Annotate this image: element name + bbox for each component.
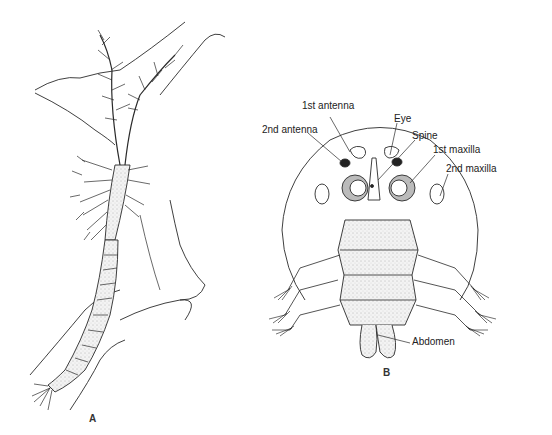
label-1st-maxilla: 1st maxilla (433, 144, 480, 155)
label-2nd-maxilla: 2nd maxilla (446, 163, 497, 174)
label-2nd-antenna: 2nd antenna (262, 124, 318, 135)
label-spine: Spine (412, 130, 438, 141)
panel-a-drawing (30, 22, 225, 410)
label-abdomen: Abdomen (412, 336, 455, 347)
label-eye: Eye (394, 113, 411, 124)
panel-label-b: B (383, 367, 390, 378)
panel-label-a: A (89, 413, 96, 424)
label-1st-antenna: 1st antenna (302, 100, 354, 111)
crustacean-larva-figure (0, 0, 552, 435)
